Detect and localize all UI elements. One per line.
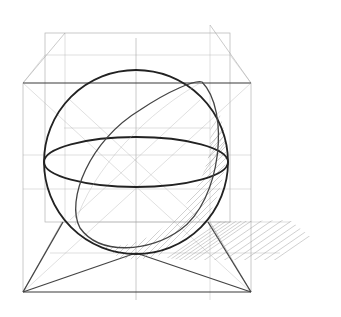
sphere-in-cube-drawing [0, 0, 341, 317]
sphere-shading [84, 60, 300, 270]
center-guides [23, 25, 290, 300]
sketch-canvas: Pencil construction sketch of a sphere i… [0, 0, 341, 317]
